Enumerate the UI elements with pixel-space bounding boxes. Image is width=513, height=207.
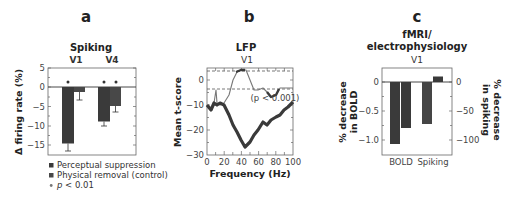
x-tick-label: 100 — [285, 157, 301, 167]
y-axis-label-left-line2: in BOLD — [348, 91, 359, 134]
y-tick-label-left: −1.0 — [358, 135, 379, 145]
y-tick-label: 0 — [40, 82, 45, 92]
panel-letter-b: b — [244, 8, 255, 26]
star-icon — [103, 81, 106, 84]
y-axis-label-right-line1: % decrease — [492, 79, 503, 140]
y-tick-label: −20 — [186, 125, 204, 135]
y-tick-label: 0 — [199, 75, 204, 85]
y-tick-label: −15 — [27, 140, 45, 150]
panel-c-title-line2: electrophysiology — [367, 41, 468, 52]
y-tick-label-right: −100 — [456, 135, 479, 145]
y-tick-label: 5 — [40, 63, 45, 73]
line-control-significant-1 — [236, 70, 245, 72]
y-axis-label-b: Mean t-score — [172, 77, 183, 147]
star-icon — [67, 81, 70, 84]
star-icon — [115, 81, 118, 84]
legend-label-suppression: Perceptual suppression — [57, 160, 156, 170]
x-category-label: Spiking — [417, 157, 448, 167]
bar-spiking-suppression — [422, 82, 432, 124]
bar-bold-suppression — [390, 82, 400, 144]
legend-swatch-control — [49, 173, 54, 178]
panel-a: a Spiking V1 V4 5 0 −5 −10 −15 Δ firing … — [13, 8, 168, 190]
y-tick-label-right: −50 — [456, 106, 474, 116]
group-label-v4: V4 — [105, 55, 118, 65]
panel-letter-c: c — [413, 8, 422, 26]
bar-v4-suppression — [98, 87, 110, 122]
x-tick-label: 0 — [204, 157, 209, 167]
panel-b: b LFP V1 0 −10 −20 −30 0 — [172, 8, 301, 179]
y-tick-label: −30 — [186, 150, 204, 160]
y-tick-label: −5 — [32, 102, 45, 112]
legend-swatch-suppression — [49, 163, 54, 168]
legend-a: Perceptual suppression Physical removal … — [49, 160, 168, 190]
x-tick-label: 40 — [236, 157, 247, 167]
y-tick-label: −10 — [186, 100, 204, 110]
x-category-label: BOLD — [389, 157, 413, 167]
x-tick-label: 60 — [253, 157, 264, 167]
bars-c — [390, 77, 443, 145]
panel-c-title-line1: fMRI/ — [402, 29, 432, 40]
bar-v1-control — [74, 87, 85, 92]
panel-letter-a: a — [81, 8, 91, 26]
group-label-v1: V1 — [69, 55, 82, 65]
bar-spiking-control — [433, 77, 443, 83]
bar-bold-control — [401, 82, 411, 128]
legend-label-significance: p < 0.01 — [56, 180, 94, 190]
bar-v1-suppression — [62, 87, 74, 144]
panel-b-subtitle: V1 — [241, 55, 253, 65]
panel-b-title: LFP — [236, 42, 257, 53]
bars-a — [62, 87, 121, 144]
x-tick-label: 20 — [219, 157, 230, 167]
y-ticks-a — [48, 68, 136, 145]
bar-v4-control — [110, 87, 121, 106]
y-tick-label-right: 0 — [456, 77, 461, 87]
panel-c: c fMRI/ electrophysiology V1 0 −0.5 −1.0… — [337, 8, 503, 167]
figure: a Spiking V1 V4 5 0 −5 −10 −15 Δ firing … — [0, 0, 513, 207]
panel-c-subtitle: V1 — [411, 55, 423, 65]
y-tick-label: −10 — [27, 121, 45, 131]
legend-label-control: Physical removal (control) — [57, 170, 168, 180]
y-axis-label-right-line2: in spiking — [481, 84, 492, 136]
legend-star-icon — [50, 184, 53, 187]
y-tick-label-left: 0 — [374, 77, 379, 87]
line-suppression — [207, 102, 293, 147]
plot-frame-a — [48, 68, 136, 155]
x-tick-label: 80 — [270, 157, 281, 167]
y-axis-label-left-line1: % decrease — [337, 81, 348, 142]
y-tick-label-left: −0.5 — [358, 106, 379, 116]
y-axis-label-a: Δ firing rate (%) — [13, 69, 24, 155]
x-axis-label-b: Frequency (Hz) — [209, 168, 290, 179]
panel-a-title: Spiking — [70, 42, 112, 53]
significance-markers-a — [67, 81, 118, 84]
significance-annotation-b: (p < 0.001) — [251, 93, 300, 103]
